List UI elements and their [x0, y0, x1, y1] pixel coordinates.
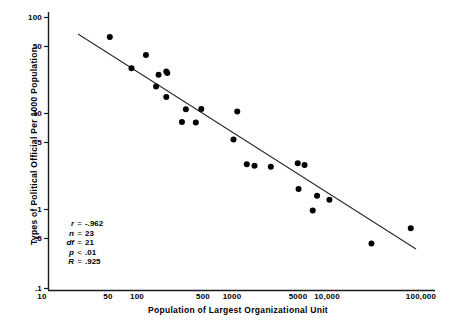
data-point: [268, 164, 274, 170]
data-point: [163, 94, 169, 100]
stat-value: .01: [85, 248, 96, 258]
stat-value: -.962: [85, 219, 103, 229]
stat-row-p: p<.01: [58, 248, 103, 258]
stat-operator: =: [74, 229, 85, 239]
y-axis-title: Types of Political Official Per 1000 Pop…: [29, 65, 39, 245]
stat-operator: =: [74, 219, 85, 229]
stat-symbol: p: [58, 248, 74, 258]
stat-symbol: r: [58, 219, 74, 229]
data-point: [193, 119, 199, 125]
data-point: [295, 160, 301, 166]
stat-row-r: r=-.962: [58, 219, 103, 229]
plot-canvas: [0, 0, 453, 324]
data-point: [314, 193, 320, 199]
x-tick-label-5: 5000: [289, 292, 308, 301]
stat-symbol: n: [58, 229, 74, 239]
stat-row-R: R=.925: [58, 257, 103, 267]
data-point: [252, 163, 258, 169]
stat-row-n: n=23: [58, 229, 103, 239]
stat-symbol: df: [58, 238, 74, 248]
data-point: [296, 186, 302, 192]
data-point: [183, 106, 189, 112]
x-tick-label-7: 100,000: [406, 292, 436, 301]
statistics-annotation: r=-.962n=23df=21p<.01R=.925: [58, 219, 103, 267]
stat-value: 21: [85, 238, 94, 248]
stat-operator: =: [74, 257, 85, 267]
data-point: [156, 72, 162, 78]
data-point: [310, 208, 316, 214]
data-point: [198, 106, 204, 112]
x-tick-label-4: 1000: [223, 292, 242, 301]
data-point: [107, 34, 113, 40]
data-point: [326, 197, 332, 203]
data-point: [408, 225, 414, 231]
x-tick-label-6: 10,000: [314, 292, 340, 301]
data-point: [153, 84, 159, 90]
stat-value: .925: [85, 257, 101, 267]
stat-row-df: df=21: [58, 238, 103, 248]
regression-line: [78, 34, 416, 249]
data-point: [164, 70, 170, 76]
data-point: [234, 108, 240, 114]
x-tick-label-1: 50: [103, 292, 112, 301]
data-point: [143, 52, 149, 58]
stat-value: 23: [85, 229, 94, 239]
data-point: [244, 161, 250, 167]
x-tick-label-3: 500: [196, 292, 210, 301]
data-point: [128, 65, 134, 71]
regression-line-segment: [78, 34, 416, 249]
stat-symbol: R: [58, 257, 74, 267]
scatter-plot-figure: 100501051.5.1 Types of Political Officia…: [0, 0, 453, 324]
y-tick-label-0: 100: [28, 13, 42, 22]
data-point: [368, 241, 374, 247]
data-point: [179, 119, 185, 125]
data-points-group: [107, 34, 414, 247]
x-axis-title: Population of Largest Organizational Uni…: [48, 305, 428, 315]
data-point: [231, 137, 237, 143]
stat-operator: =: [74, 238, 85, 248]
x-tick-label-0: 10: [37, 292, 46, 301]
stat-operator: <: [74, 248, 85, 258]
x-tick-label-2: 100: [130, 292, 144, 301]
data-point: [302, 162, 308, 168]
